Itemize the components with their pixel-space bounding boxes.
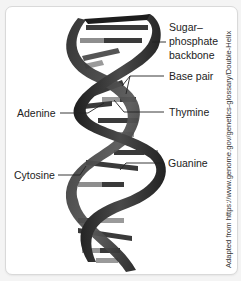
label-adenine: Adenine bbox=[17, 107, 56, 119]
label-backbone-line1: Sugar– bbox=[169, 21, 203, 33]
label-thymine: Thymine bbox=[169, 106, 209, 118]
label-guanine: Guanine bbox=[168, 157, 208, 169]
label-backbone-line3: backbone bbox=[169, 49, 215, 61]
label-cytosine: Cytosine bbox=[14, 169, 55, 181]
label-backbone-line2: phosphate bbox=[169, 35, 218, 47]
label-base-pair: Base pair bbox=[169, 70, 213, 82]
source-credit: Adapted from https://www.genome.gov/gene… bbox=[224, 31, 233, 268]
strand-front bbox=[74, 14, 166, 262]
